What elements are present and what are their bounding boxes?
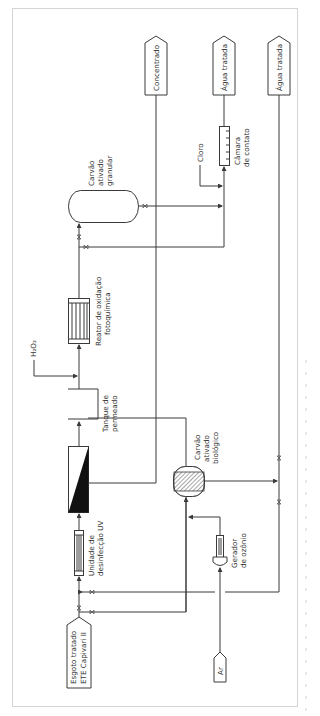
output-concentrate: Concentrado: [145, 36, 167, 95]
output-label-treated-2: Água tratada: [275, 44, 284, 91]
uv-label-1: Unidade de: [87, 534, 96, 576]
source-node: Esgoto tratado ETE Capivari II: [67, 617, 91, 688]
contact-label-2: de contato: [242, 128, 251, 167]
tank-label-2: permeado: [110, 395, 119, 432]
contact-label-1: Câmara: [233, 137, 242, 165]
contact-chamber: Câmara de contato: [220, 127, 252, 168]
figure-frame: [13, 9, 298, 707]
granular-activated-carbon-tank: Carvão ativado granular: [69, 156, 139, 223]
gac-label-2: ativado: [96, 159, 105, 186]
reactor-label-2: fotoquímica: [103, 292, 112, 335]
ozone-label-2: de ozônio: [239, 533, 248, 568]
reactor-label-1: Reator de oxidação: [94, 277, 103, 346]
output-label-concentrate: Concentrado: [152, 45, 161, 91]
gac-label-3: granular: [105, 156, 114, 186]
process-flow-diagram: Esgoto tratado ETE Capivari II Unidade d…: [0, 0, 320, 716]
membrane-filter: [69, 447, 89, 513]
bac-label-3: biológico: [211, 432, 220, 464]
output-treated-water-1: Água tratada: [213, 36, 235, 95]
air-source: Ar: [214, 652, 226, 682]
h2o2-dosing: H₂O₂: [29, 340, 77, 376]
bac-label-1: Carvão: [193, 435, 202, 460]
chlorine-label: Cloro: [196, 143, 205, 162]
uv-label-2: desinfecção UV: [96, 521, 105, 576]
air-label: Ar: [216, 667, 225, 675]
source-label-1: Esgoto tratado: [69, 631, 78, 684]
gac-label-1: Carvão: [87, 161, 96, 186]
biological-activated-carbon-tank: Carvão ativado biológico: [174, 432, 221, 497]
source-label-2: ETE Capivari II: [79, 632, 88, 684]
ozone-generator: Gerador de ozônio: [189, 517, 248, 568]
bac-label-2: ativado: [202, 435, 211, 462]
output-label-treated-1: Água tratada: [220, 44, 229, 91]
ozone-label-1: Gerador: [230, 539, 239, 568]
output-treated-water-2: Água tratada: [268, 36, 290, 95]
permeate-tank: Tanque de permeado: [68, 389, 119, 433]
h2o2-label: H₂O₂: [29, 340, 38, 357]
photochemical-reactor: Reator de oxidação fotoquímica: [69, 277, 113, 346]
chlorine-dosing: Cloro: [196, 143, 222, 186]
tank-label-1: Tanque de: [101, 394, 110, 433]
